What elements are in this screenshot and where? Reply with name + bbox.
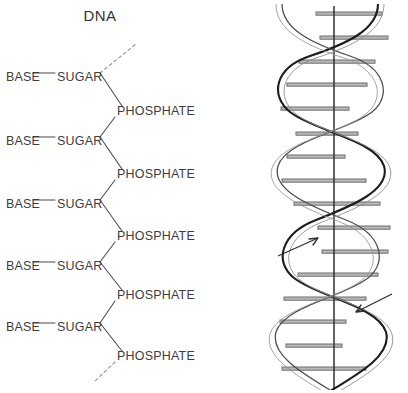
base-label: BASE [6, 320, 40, 334]
top-continuation-dash [100, 44, 136, 73]
base-pair-rung [316, 12, 382, 15]
sugar-phosphate-bond-5 [100, 323, 122, 351]
base-label: BASE [6, 70, 40, 84]
base-pair-rung [287, 83, 367, 86]
sugar-label: SUGAR [57, 259, 102, 273]
dna-double-helix-diagram [260, 0, 408, 393]
phosphate-label: PHOSPHATE [117, 229, 195, 243]
dna-backbone-chain-diagram: DNA [0, 0, 260, 393]
sugar-phosphate-bond-2 [100, 137, 122, 169]
phosphate-label: PHOSPHATE [117, 104, 195, 118]
sugar-label: SUGAR [57, 134, 102, 148]
sugar-label: SUGAR [57, 197, 102, 211]
phosphate-label: PHOSPHATE [117, 349, 195, 363]
base-pair-rung [282, 179, 366, 182]
sugar-phosphate-bond-4 [100, 262, 122, 290]
sugar-phosphate-bond-1 [100, 73, 122, 106]
phosphate-label: PHOSPHATE [117, 288, 195, 302]
sugar-label: SUGAR [57, 320, 102, 334]
base-pair-rung [287, 155, 345, 158]
dna-figure: DNA [0, 0, 408, 393]
base-label: BASE [6, 259, 40, 273]
sugar-phosphate-bond-3 [100, 200, 122, 231]
base-label: BASE [6, 197, 40, 211]
double-helix-drawing [260, 0, 408, 393]
base-pair-rung [280, 320, 346, 323]
base-label: BASE [6, 134, 40, 148]
phosphate-label: PHOSPHATE [117, 167, 195, 181]
bottom-continuation-dash [95, 362, 115, 381]
sugar-label: SUGAR [57, 70, 102, 84]
